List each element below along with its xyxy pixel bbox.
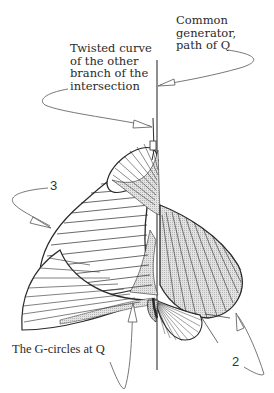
leader-twisted-curve (42, 89, 152, 128)
leader-g-circles (110, 303, 137, 389)
right-cone-surface (160, 205, 242, 318)
surface-2-label: 2 (232, 354, 239, 369)
twisted-curve-label: Twisted curve of the other branch of the… (70, 42, 152, 92)
leader-3 (12, 188, 51, 228)
leader-2 (236, 313, 264, 375)
g-circles-label: The G-circles at Q (12, 343, 105, 356)
leader-common-generator (158, 50, 254, 86)
surface-3-label: 3 (50, 178, 57, 193)
common-generator-label: Common generator, path of Q (176, 14, 236, 52)
